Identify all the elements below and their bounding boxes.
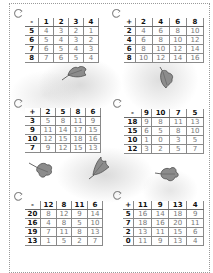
answer-cell: 6 <box>54 54 69 63</box>
answer-cell: 12 <box>152 54 169 63</box>
row-header: 18 <box>124 118 141 127</box>
leaf-icon <box>154 165 180 183</box>
column-header: 5 <box>55 108 70 117</box>
answer-cell: 12 <box>186 36 203 45</box>
subtraction-table-5: - 12 8 11 6 20 8 12 9 14 16 4 8 5 10 1 <box>25 201 103 246</box>
column-header: 2 <box>40 108 55 117</box>
row-header: 7 <box>25 144 40 153</box>
answer-cell: 4 <box>84 54 99 63</box>
answer-cell: 4 <box>40 219 56 228</box>
addition-table-2: + 2 4 6 8 2 4 6 8 10 4 6 8 10 12 6 <box>124 18 204 63</box>
row-header: 19 <box>25 228 40 237</box>
answer-cell: 10 <box>186 27 203 36</box>
answer-cell: 20 <box>169 219 187 228</box>
answer-cell: 16 <box>85 135 100 144</box>
table-row: 2 4 6 8 10 <box>124 27 204 36</box>
answer-cell: 8 <box>170 127 187 136</box>
answer-cell: 6 <box>141 127 151 136</box>
table-row: 16 4 8 5 10 <box>25 219 103 228</box>
operator-cell: + <box>124 18 135 27</box>
column-header: 2 <box>54 18 69 27</box>
table-row: 13 1 5 2 7 <box>25 237 103 246</box>
answer-cell: 9 <box>152 237 169 246</box>
answer-cell: 5 <box>170 145 187 154</box>
answer-cell: 1 <box>40 237 56 246</box>
answer-cell: 9 <box>187 210 204 219</box>
loop-arrow-icon <box>13 191 24 202</box>
operator-cell: + <box>123 201 134 210</box>
operator-cell: - <box>25 18 39 27</box>
column-header: 3 <box>69 18 84 27</box>
answer-cell: 11 <box>187 219 204 228</box>
table-row: 15 6 5 8 10 <box>124 127 204 136</box>
answer-cell: 8 <box>71 228 87 237</box>
answer-cell: 15 <box>85 126 100 135</box>
answer-cell: 8 <box>152 36 169 45</box>
operator-cell: + <box>25 108 40 117</box>
table-row: 18 9 8 11 13 <box>124 118 204 127</box>
answer-cell: 8 <box>151 118 169 127</box>
answer-cell: 12 <box>55 144 70 153</box>
column-header: 6 <box>88 201 103 210</box>
answer-cell: 10 <box>187 127 204 136</box>
column-header: 4 <box>84 18 99 27</box>
answer-cell: 18 <box>169 210 187 219</box>
column-header: 6 <box>169 18 186 27</box>
answer-cell: 5 <box>151 127 169 136</box>
answer-cell: 7 <box>88 237 103 246</box>
row-header: 5 <box>25 27 39 36</box>
answer-cell: 0 <box>151 136 169 145</box>
table-row: 10 12 15 18 16 <box>25 135 101 144</box>
answer-cell: 5 <box>187 136 204 145</box>
answer-cell: 16 <box>186 54 203 63</box>
leaf-icon <box>28 160 54 180</box>
answer-cell: 2 <box>69 27 84 36</box>
table-row: 8 7 6 5 4 <box>25 54 99 63</box>
answer-cell: 3 <box>84 45 99 54</box>
row-header: 7 <box>123 219 134 228</box>
loop-arrow-icon <box>13 8 24 19</box>
column-header: 6 <box>85 108 100 117</box>
answer-cell: 4 <box>187 237 204 246</box>
answer-cell: 3 <box>69 36 84 45</box>
answer-cell: 13 <box>85 144 100 153</box>
answer-cell: 18 <box>134 219 152 228</box>
operator-cell: - <box>25 201 40 210</box>
answer-cell: 14 <box>55 126 70 135</box>
column-header: 8 <box>70 108 85 117</box>
column-header: 8 <box>186 18 203 27</box>
column-header: 9 <box>152 201 169 210</box>
row-header: 9 <box>25 126 40 135</box>
answer-cell: 4 <box>69 45 84 54</box>
table-row: 4 6 8 10 12 <box>124 36 204 45</box>
answer-cell: 8 <box>55 117 70 126</box>
answer-cell: 2 <box>151 145 169 154</box>
answer-cell: 6 <box>187 228 204 237</box>
table-row: 10 1 0 3 5 <box>124 136 204 145</box>
answer-cell: 13 <box>134 228 152 237</box>
table-row: 7 9 12 15 13 <box>25 144 101 153</box>
answer-cell: 6 <box>39 45 54 54</box>
loop-arrow-icon <box>13 98 24 109</box>
table-row: 6 5 4 3 2 <box>25 36 99 45</box>
answer-cell: 9 <box>85 117 100 126</box>
column-header: 9 <box>141 109 151 118</box>
answer-cell: 14 <box>88 210 103 219</box>
column-header: 2 <box>135 18 152 27</box>
answer-cell: 11 <box>70 117 85 126</box>
answer-cell: 4 <box>135 27 152 36</box>
answer-cell: 14 <box>152 210 169 219</box>
row-header: 5 <box>123 210 134 219</box>
subtraction-table-4: - 9 10 7 5 18 9 8 11 13 15 6 5 8 10 10 <box>124 109 204 154</box>
column-header: 7 <box>170 109 187 118</box>
answer-cell: 16 <box>134 210 152 219</box>
column-header: 8 <box>57 201 72 210</box>
answer-cell: 4 <box>54 36 69 45</box>
answer-cell: 16 <box>152 219 169 228</box>
table-row: 6 8 10 12 14 <box>124 45 204 54</box>
row-header: 3 <box>25 117 40 126</box>
answer-cell: 10 <box>152 45 169 54</box>
answer-cell: 5 <box>39 36 54 45</box>
answer-cell: 1 <box>141 136 151 145</box>
column-header: 4 <box>152 18 169 27</box>
